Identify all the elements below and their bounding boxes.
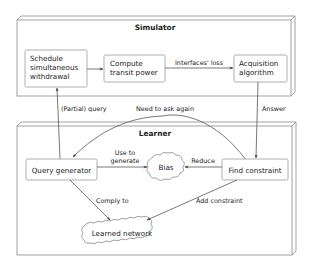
learner-depth — [17, 122, 296, 255]
acquisition-line-1: Acquisition — [239, 59, 278, 68]
learner-front-face — [17, 126, 292, 255]
learned-network-label: Learned network — [92, 229, 153, 238]
schedule-line-2: simultaneous — [30, 63, 78, 72]
schedule-line-3: withdrawal — [30, 72, 69, 81]
node-acquisition-algorithm: Acquisition algorithm — [234, 55, 287, 82]
node-compute-transit-power: Compute transit power — [104, 55, 165, 82]
node-find-constraint: Find constraint — [222, 159, 288, 180]
label-comply-to: Comply to — [96, 197, 129, 205]
compute-line-2: transit power — [110, 68, 158, 77]
learner-title: Learner — [139, 129, 172, 138]
node-query-generator: Query generator — [26, 159, 97, 180]
node-schedule-withdrawal: Schedule simultaneous withdrawal — [25, 50, 87, 87]
simulator-depth-edge — [291, 16, 295, 20]
query-generator-label: Query generator — [32, 166, 92, 175]
simulator-title: Simulator — [135, 23, 176, 32]
learner-frame: Learner — [17, 122, 296, 255]
edge-partial-query — [57, 88, 60, 159]
diagram-canvas: Simulator Learner Schedule simultaneous … — [0, 0, 311, 268]
learner-depth-edge — [292, 122, 296, 126]
node-bias-cloud: Bias — [147, 152, 184, 180]
schedule-line-1: Schedule — [30, 54, 64, 63]
label-add-constraint: Add constraint — [196, 197, 243, 205]
label-partial-query: (Partial) query — [61, 105, 107, 113]
compute-line-1: Compute — [110, 59, 143, 68]
label-need-to-ask-again: Need to ask again — [136, 105, 194, 113]
label-answer: Answer — [262, 105, 286, 113]
edge-answer — [256, 82, 258, 158]
label-interfaces-loss: Interfaces' loss — [175, 59, 224, 67]
label-use-to-line-1: Use to — [115, 149, 135, 157]
node-learned-network-cloud: Learned network — [82, 216, 153, 244]
label-use-to-line-2: generate — [111, 157, 140, 165]
bias-label: Bias — [158, 163, 173, 172]
acquisition-line-2: algorithm — [239, 68, 274, 77]
find-constraint-label: Find constraint — [228, 166, 281, 175]
label-reduce: Reduce — [191, 157, 215, 165]
